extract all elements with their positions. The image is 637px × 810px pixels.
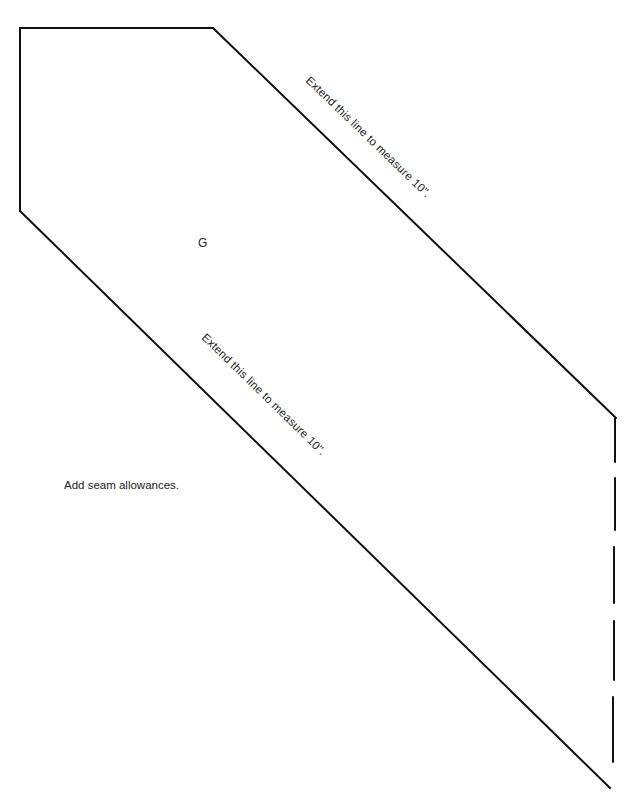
upper-diagonal-edge <box>213 28 616 418</box>
lower-diagonal-edge <box>20 211 610 788</box>
seam-allowance-note: Add seam allowances. <box>64 479 179 491</box>
piece-letter: G <box>198 236 207 250</box>
pattern-piece-outline <box>0 0 637 810</box>
right-dashed-edge <box>613 418 615 762</box>
